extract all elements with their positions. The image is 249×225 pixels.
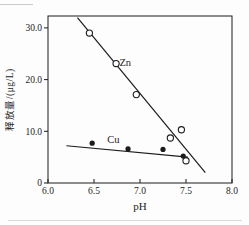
cu-data-point: [125, 146, 130, 151]
x-tick-label: 6.5: [88, 186, 100, 196]
metal-release-vs-ph-chart: 6.06.57.07.58.0010.020.030.0pH释放量/(μg/L)…: [0, 0, 249, 225]
zn-data-point: [133, 91, 139, 97]
zn-data-point: [167, 135, 173, 141]
x-tick-label: 8.0: [226, 186, 238, 196]
y-tick-label: 0: [37, 178, 42, 188]
zn-series-label: Zn: [119, 57, 131, 68]
cu-data-point: [181, 154, 186, 159]
x-tick-label: 6.0: [42, 186, 54, 196]
y-axis-title: 释放量/(μg/L): [4, 68, 16, 130]
cu-series-label: Cu: [107, 134, 120, 145]
x-axis-title: pH: [133, 200, 147, 212]
zn-data-point: [86, 30, 92, 36]
y-tick-label: 20.0: [25, 75, 42, 85]
cu-data-point: [160, 147, 165, 152]
plot-area-border: [48, 16, 232, 183]
cu-data-point: [90, 141, 95, 146]
x-tick-label: 7.5: [180, 186, 192, 196]
zn-trendline: [77, 18, 205, 173]
x-tick-label: 7.0: [134, 186, 146, 196]
figure-page: 6.06.57.07.58.0010.020.030.0pH释放量/(μg/L)…: [0, 0, 249, 225]
zn-data-point: [113, 60, 119, 66]
y-tick-label: 10.0: [25, 127, 42, 137]
zn-data-point: [178, 127, 184, 133]
y-tick-label: 30.0: [25, 23, 42, 33]
